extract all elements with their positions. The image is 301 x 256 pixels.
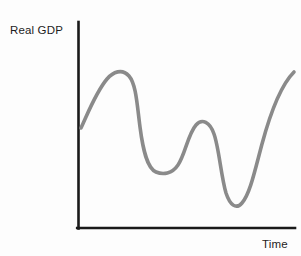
y-axis-label: Real GDP — [10, 24, 63, 37]
chart-canvas: Real GDP Time — [0, 0, 301, 256]
x-axis-label: Time — [262, 238, 288, 251]
real-gdp-curve — [81, 72, 294, 207]
business-cycle-plot — [0, 0, 301, 256]
